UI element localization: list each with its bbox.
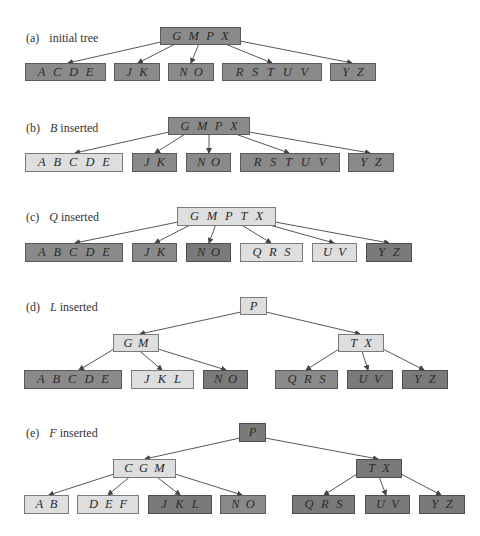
node-key: A (38, 65, 46, 80)
edge-arrow (175, 474, 242, 495)
tree-node-d-m1: GM (113, 334, 159, 352)
node-key: K (158, 372, 166, 387)
tree-node-e-l6: UV (365, 495, 410, 514)
panel-caption-e: (e)F inserted (26, 426, 98, 441)
node-key: Z (357, 65, 364, 80)
node-key: U (358, 372, 367, 387)
node-key: T (368, 461, 375, 476)
tree-node-c-l1: ABCDE (25, 243, 123, 262)
tree-node-c-root: GMPTX (177, 207, 276, 226)
tree-node-e-m1: CGM (113, 459, 176, 478)
caption-text: inserted (57, 426, 98, 440)
tree-node-d-l5: UV (347, 370, 393, 389)
node-key: Z (375, 155, 382, 170)
edge-arrow (140, 312, 241, 334)
node-key: J (144, 155, 150, 170)
tree-node-e-l5: QRS (292, 495, 355, 514)
edge-arrow (306, 349, 339, 370)
tree-node-e-l7: YZ (419, 495, 465, 514)
node-key: M (207, 209, 217, 224)
caption-text: initial tree (49, 31, 98, 45)
tree-node-e-root: P (239, 423, 266, 442)
tree-node-d-l2: JKL (131, 370, 194, 389)
tree-node-a-l2: JK (114, 63, 160, 81)
node-key: B (54, 245, 62, 260)
node-key: J (161, 497, 167, 512)
node-key: C (68, 372, 76, 387)
panel-tag: (c) (26, 210, 39, 224)
node-key: X (230, 119, 238, 134)
node-key: Z (429, 372, 436, 387)
node-key: O (211, 155, 220, 170)
tree-node-e-l4: NO (220, 495, 266, 514)
node-key: Y (378, 245, 385, 260)
inserted-key: Q (49, 210, 58, 224)
node-key: P (250, 299, 258, 314)
node-key: S (270, 155, 276, 170)
node-key: M (197, 119, 207, 134)
node-key: C (124, 461, 132, 476)
tree-node-b-l4: RSTUV (240, 153, 340, 172)
panel-caption-a: (a)initial tree (26, 31, 98, 46)
node-key: D (85, 245, 94, 260)
node-key: J (144, 372, 150, 387)
tree-node-b-l2: JK (132, 153, 177, 172)
node-key: S (252, 65, 258, 80)
tree-node-d-l3: NO (203, 370, 248, 389)
node-key: N (231, 497, 239, 512)
node-key: X (382, 461, 390, 476)
node-key: R (254, 155, 262, 170)
node-key: M (138, 336, 148, 351)
panel-caption-d: (d)L inserted (26, 300, 98, 315)
panel-tag: (d) (26, 300, 40, 314)
tree-node-d-l1: ABCDE (24, 370, 122, 389)
tree-node-d-l4: QRS (275, 370, 338, 389)
tree-node-e-l2: DEF (77, 495, 139, 514)
node-key: L (174, 372, 181, 387)
node-key: M (154, 461, 164, 476)
edge-arrow (240, 41, 352, 63)
tree-node-b-root: GMPX (168, 117, 250, 135)
tree-node-a-root: GMPX (160, 27, 241, 45)
caption-text: inserted (57, 300, 98, 314)
node-key: K (139, 65, 147, 80)
panel-caption-c: (c)Q inserted (26, 210, 99, 225)
node-key: P (206, 29, 214, 44)
tree-node-a-l4: RSTUV (222, 63, 322, 81)
node-key: T (241, 209, 248, 224)
node-key: D (89, 497, 98, 512)
node-key: P (249, 425, 257, 440)
tree-node-e-l3: JKL (148, 495, 212, 514)
edge-arrow (266, 312, 360, 334)
node-key: N (197, 155, 205, 170)
node-key: X (255, 209, 263, 224)
node-key: T (350, 336, 357, 351)
node-key: U (283, 65, 292, 80)
node-key: S (284, 245, 290, 260)
node-key: A (37, 372, 45, 387)
tree-node-d-l6: YZ (402, 370, 448, 389)
node-key: K (175, 497, 183, 512)
node-key: E (105, 497, 113, 512)
node-key: O (194, 65, 203, 80)
node-key: R (304, 372, 312, 387)
node-key: K (157, 155, 165, 170)
node-key: Z (393, 245, 400, 260)
node-key: N (179, 65, 187, 80)
node-key: L (192, 497, 199, 512)
node-key: Q (288, 372, 297, 387)
node-key: E (101, 372, 109, 387)
edge-arrow (324, 474, 357, 495)
node-key: B (50, 497, 58, 512)
inserted-key: L (50, 300, 57, 314)
node-key: Q (253, 245, 262, 260)
node-key: A (36, 497, 44, 512)
node-key: U (376, 497, 385, 512)
node-key: E (102, 155, 110, 170)
node-key: U (301, 155, 310, 170)
node-key: R (321, 497, 329, 512)
panel-tag: (a) (26, 31, 39, 45)
tree-node-b-l5: YZ (348, 153, 394, 172)
node-key: Y (342, 65, 349, 80)
edge-arrow (249, 132, 370, 153)
